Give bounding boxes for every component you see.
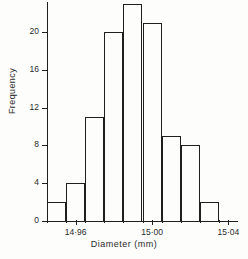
histogram-bar [47, 202, 66, 221]
y-axis-tick: 12 [42, 108, 48, 109]
y-axis-tick-label: 0 [34, 215, 39, 226]
y-axis-tick: 4 [42, 183, 48, 184]
histogram-bar [162, 136, 181, 221]
histogram-figure: Frequency 048121620 14·9615·0015·04 Diam… [0, 0, 248, 259]
x-axis-tick [228, 220, 229, 225]
histogram-bar [200, 202, 219, 221]
x-axis-tick [66, 220, 67, 223]
y-axis-tick: 16 [42, 70, 48, 71]
x-axis-tick [219, 220, 220, 223]
x-axis-tick-label: 15·00 [141, 227, 163, 238]
histogram-bar [181, 145, 200, 221]
histogram-bar [104, 32, 123, 221]
y-axis-title: Frequency [7, 51, 17, 131]
y-axis-tick-label: 12 [30, 102, 39, 113]
plot-area: 048121620 [47, 2, 238, 221]
y-axis-tick: 8 [42, 145, 48, 146]
histogram-bar [66, 183, 85, 221]
histogram-bar [143, 23, 162, 221]
x-axis-tick [85, 220, 86, 223]
x-axis-tick [200, 220, 201, 223]
y-axis-tick-label: 20 [30, 26, 39, 37]
x-axis-tick-label: 15·04 [218, 227, 240, 238]
x-axis-tick [123, 220, 124, 223]
x-axis-tick [162, 220, 163, 223]
x-axis-tick [152, 220, 153, 225]
x-axis-title: Diameter (mm) [0, 239, 248, 249]
histogram-bar [85, 117, 104, 221]
y-axis-tick-label: 4 [34, 177, 39, 188]
x-axis-tick [181, 220, 182, 223]
histogram-bar [123, 4, 142, 221]
x-axis-tick-label: 14·96 [65, 227, 87, 238]
y-axis-tick-label: 16 [30, 64, 39, 75]
y-axis-tick-label: 8 [34, 139, 39, 150]
y-axis-tick: 20 [42, 32, 48, 33]
x-axis-tick [143, 220, 144, 223]
x-axis-tick [104, 220, 105, 223]
x-axis-tick [47, 220, 48, 223]
y-axis-line [47, 2, 48, 221]
x-axis-tick [76, 220, 77, 225]
